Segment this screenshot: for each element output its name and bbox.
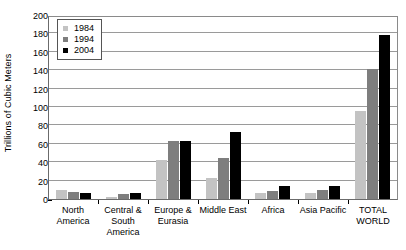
- y-tick-label: 140: [24, 67, 48, 76]
- bar: [317, 190, 328, 199]
- bar: [355, 111, 366, 199]
- y-tick-label: 180: [24, 30, 48, 39]
- bar: [267, 191, 278, 199]
- bar: [379, 35, 390, 199]
- bar-group: [298, 17, 348, 199]
- bar-group: [198, 17, 248, 199]
- bar: [56, 190, 67, 199]
- legend-item: 1984: [63, 23, 94, 34]
- bar: [180, 141, 191, 199]
- x-axis-label-6: TOTAL WORLD: [348, 205, 398, 238]
- bar: [156, 160, 167, 199]
- legend-swatch: [63, 37, 68, 42]
- y-tick-label: 80: [24, 122, 48, 131]
- x-axis-label-3: Middle East: [198, 205, 248, 238]
- bar: [206, 178, 217, 199]
- y-tick-label: 100: [24, 104, 48, 113]
- x-axis-label-5: Asia Pacific: [298, 205, 348, 238]
- y-tick-label: 40: [24, 159, 48, 168]
- chart-legend: 198419942004: [57, 19, 102, 60]
- y-tick-label: 200: [24, 12, 48, 21]
- bar: [106, 197, 117, 199]
- y-tick-label: 20: [24, 178, 48, 187]
- bar: [230, 132, 241, 199]
- y-axis-tick-labels: 020406080100120140160180200: [16, 16, 48, 200]
- y-tick-label: 0: [24, 196, 48, 205]
- bar-group: [248, 17, 298, 199]
- bar: [305, 193, 316, 199]
- x-tick-mark: [98, 200, 99, 204]
- bar: [218, 158, 229, 199]
- y-axis-title-text: Trillions of Cubic Meters: [3, 54, 13, 153]
- bar: [279, 186, 290, 199]
- x-tick-mark: [198, 200, 199, 204]
- bar-group: [148, 17, 198, 199]
- x-axis-label-0: North America: [48, 205, 98, 238]
- x-axis-label-1: Central & South America: [98, 205, 148, 238]
- legend-item: 1994: [63, 34, 94, 45]
- legend-label: 2004: [74, 46, 94, 55]
- legend-swatch: [63, 26, 68, 31]
- bar: [130, 193, 141, 199]
- x-axis-label-4: Africa: [248, 205, 298, 238]
- bar: [329, 186, 340, 199]
- legend-item: 2004: [63, 45, 94, 56]
- bar: [168, 141, 179, 199]
- y-tick-label: 60: [24, 141, 48, 150]
- bar: [68, 192, 79, 199]
- x-tick-mark: [348, 200, 349, 204]
- bar-group: [347, 17, 397, 199]
- bar-group: [99, 17, 149, 199]
- legend-label: 1984: [74, 24, 94, 33]
- y-tick-label: 120: [24, 86, 48, 95]
- x-tick-mark: [298, 200, 299, 204]
- bar: [255, 193, 266, 199]
- bar-chart: Trillions of Cubic Meters 02040608010012…: [0, 0, 406, 250]
- x-axis-labels: North AmericaCentral & South AmericaEuro…: [48, 205, 398, 238]
- bar: [80, 193, 91, 199]
- legend-label: 1994: [74, 35, 94, 44]
- bar: [118, 194, 129, 199]
- y-tick-label: 160: [24, 49, 48, 58]
- y-axis-title: Trillions of Cubic Meters: [0, 0, 16, 206]
- x-axis-label-2: Europe & Eurasia: [148, 205, 198, 238]
- bar: [367, 69, 378, 199]
- x-tick-mark: [148, 200, 149, 204]
- legend-swatch: [63, 48, 68, 53]
- x-tick-mark: [248, 200, 249, 204]
